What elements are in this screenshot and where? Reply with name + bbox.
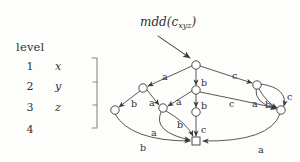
- figure-title-main: mdd(c: [140, 15, 178, 29]
- level-number-1: 1: [24, 61, 36, 72]
- node-level3-b: [159, 104, 167, 112]
- node-level2-b: [192, 86, 200, 94]
- edge-d2-a: [203, 114, 280, 141]
- level-number-2: 2: [24, 81, 36, 92]
- edge-label-n-c1-c: c: [287, 92, 292, 102]
- node-root: [192, 61, 200, 69]
- edge-label-n-a1-b: b: [131, 99, 137, 109]
- edge-label-root-a: a: [162, 72, 168, 82]
- mdd-figure: mdd(cxyz) level 1 x 2 y 3 z 4 abcbaabcab…: [0, 0, 300, 162]
- title-pointer-arrow: [158, 36, 190, 58]
- figure-title-close: ): [191, 15, 196, 29]
- edge-label-n-c2-c: c: [201, 125, 206, 135]
- edge-label-n-c1-b: b: [265, 100, 271, 110]
- edge-label-root-c: c: [232, 71, 237, 81]
- level-variable-2: y: [52, 81, 64, 92]
- node-level3-c: [192, 108, 200, 116]
- edge-label-n-a1-a: a: [149, 98, 155, 108]
- node-terminal: [192, 137, 200, 145]
- level-number-4: 4: [24, 124, 36, 135]
- edge-label-n-b1-c: c: [229, 99, 234, 109]
- figure-title: mdd(cxyz): [140, 16, 196, 30]
- edge-label-n-b1-a: a: [176, 97, 182, 107]
- node-level3-a: [111, 106, 119, 114]
- edge-label-n-a2-b: b: [140, 143, 146, 153]
- node-level2-a: [139, 84, 147, 92]
- edge-label-n-d2-a: a: [258, 145, 264, 155]
- level-bracket: [92, 58, 97, 128]
- level-header-label: level: [16, 42, 44, 54]
- edge-label-n-c1-a: a: [252, 99, 258, 109]
- edge-label-n-b2-a: a: [151, 128, 157, 138]
- edge-label-n-b2-b: b: [177, 120, 183, 130]
- level-number-3: 3: [24, 102, 36, 113]
- edge-label-n-b1-b: b: [201, 101, 207, 111]
- node-level3-d: [277, 106, 285, 114]
- level-variable-1: x: [52, 61, 64, 72]
- edge-root-c: [200, 66, 252, 83]
- figure-title-subscript: xyz: [178, 21, 191, 30]
- edge-label-root-b: b: [201, 78, 207, 88]
- edge-root-a: [148, 66, 192, 86]
- level-variable-3: z: [52, 102, 64, 113]
- node-level2-c: [253, 81, 261, 89]
